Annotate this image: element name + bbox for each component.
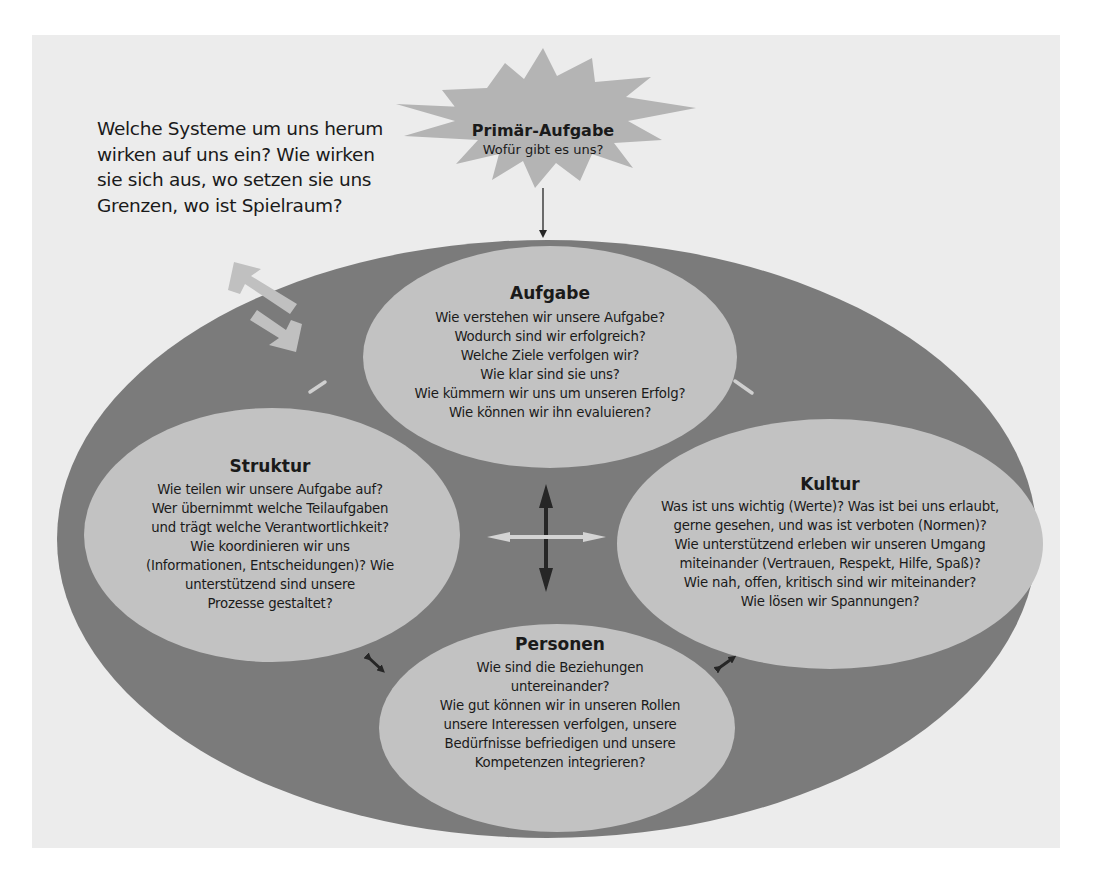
- node-personen-line: Wie gut können wir in unseren Rollen: [400, 696, 720, 715]
- node-personen-line: untereinander?: [400, 677, 720, 696]
- node-kultur-line: gerne gesehen, und was ist verboten (Nor…: [640, 516, 1020, 535]
- node-kultur-title: Kultur: [640, 473, 1020, 495]
- node-aufgabe-line: Welche Ziele verfolgen wir?: [390, 346, 710, 365]
- node-kultur: Kultur Was ist uns wichtig (Werte)? Was …: [640, 473, 1020, 611]
- node-kultur-line: Wie lösen wir Spannungen?: [640, 592, 1020, 611]
- environment-line: sie sich aus, wo setzen sie uns: [97, 167, 387, 193]
- primary-task-subtitle: Wofür gibt es uns?: [443, 141, 643, 159]
- environment-line: wirken auf uns ein? Wie wirken: [97, 142, 387, 168]
- node-aufgabe-title: Aufgabe: [390, 282, 710, 304]
- primary-task-label: Primär-Aufgabe Wofür gibt es uns?: [443, 121, 643, 159]
- node-kultur-line: miteinander (Vertrauen, Respekt, Hilfe, …: [640, 554, 1020, 573]
- node-kultur-line: Wie nah, offen, kritisch sind wir mitein…: [640, 573, 1020, 592]
- primary-task-title: Primär-Aufgabe: [443, 121, 643, 141]
- node-struktur-line: und trägt welche Verantwortlichkeit?: [110, 518, 430, 537]
- node-aufgabe-line: Wie verstehen wir unsere Aufgabe?: [390, 308, 710, 327]
- node-personen-line: unsere Interessen verfolgen, unsere: [400, 715, 720, 734]
- node-personen-title: Personen: [400, 633, 720, 655]
- node-personen-line: Bedürfnisse befriedigen und unsere: [400, 734, 720, 753]
- node-aufgabe-line: Wie klar sind sie uns?: [390, 365, 710, 384]
- node-struktur-line: (Informationen, Entscheidungen)? Wie: [110, 556, 430, 575]
- node-aufgabe-line: Wie können wir ihn evaluieren?: [390, 403, 710, 422]
- node-struktur-line: Prozesse gestaltet?: [110, 594, 430, 613]
- node-kultur-line: Was ist uns wichtig (Werte)? Was ist bei…: [640, 497, 1020, 516]
- node-struktur-line: Wie teilen wir unsere Aufgabe auf?: [110, 480, 430, 499]
- node-struktur-line: Wie koordinieren wir uns: [110, 537, 430, 556]
- node-struktur: Struktur Wie teilen wir unsere Aufgabe a…: [110, 455, 430, 613]
- environment-line: Grenzen, wo ist Spielraum?: [97, 193, 387, 219]
- node-struktur-line: Wer übernimmt welche Teilaufgaben: [110, 499, 430, 518]
- node-aufgabe-line: Wodurch sind wir erfolgreich?: [390, 327, 710, 346]
- node-personen: Personen Wie sind die Beziehungen untere…: [400, 633, 720, 772]
- node-personen-line: Kompetenzen integrieren?: [400, 753, 720, 772]
- node-personen-line: Wie sind die Beziehungen: [400, 658, 720, 677]
- node-kultur-line: Wie unterstützend erleben wir unseren Um…: [640, 535, 1020, 554]
- environment-question: Welche Systeme um uns herum wirken auf u…: [97, 116, 387, 218]
- node-struktur-line: unterstützend sind unsere: [110, 575, 430, 594]
- environment-line: Welche Systeme um uns herum: [97, 116, 387, 142]
- node-struktur-title: Struktur: [110, 455, 430, 477]
- node-aufgabe: Aufgabe Wie verstehen wir unsere Aufgabe…: [390, 282, 710, 422]
- node-aufgabe-line: Wie kümmern wir uns um unseren Erfolg?: [390, 384, 710, 403]
